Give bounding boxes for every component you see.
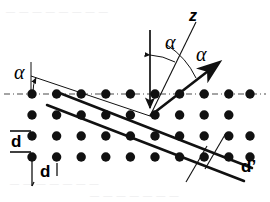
lattice-row-3	[27, 131, 254, 140]
alpha-label-surface: α	[14, 62, 25, 82]
angle-arc-surface	[33, 78, 36, 92]
alpha-label-incident: α	[165, 32, 176, 52]
alpha-label-scattered: α	[196, 44, 207, 64]
d-label-horizontal: d	[40, 163, 50, 180]
angle-arc-incident	[150, 55, 175, 62]
d-label-vertical: d	[11, 133, 21, 150]
grazing-incidence-line	[31, 62, 150, 116]
lattice-row-2	[27, 110, 233, 119]
z-axis-label: z	[189, 8, 197, 24]
figure-canvas: — — — — — — — — — — — — — — — — — — — — …	[0, 0, 270, 202]
d-prime-label: d’	[241, 158, 256, 175]
